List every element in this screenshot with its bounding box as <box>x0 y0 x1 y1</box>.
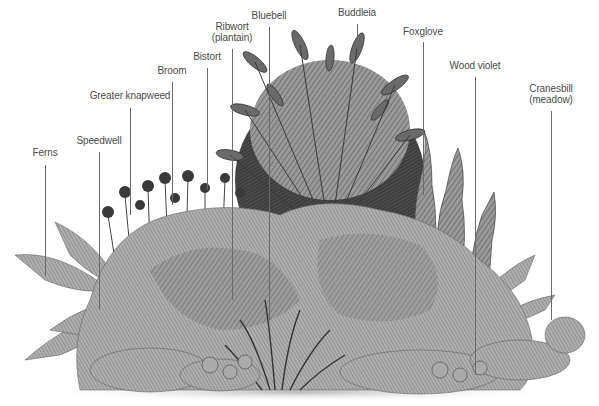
leader-line-ribwort-plantain <box>232 49 233 300</box>
leader-line-cranesbill-meadow <box>551 111 552 320</box>
label-text: Bluebell <box>252 10 287 21</box>
leader-line-greater-knapweed <box>130 108 131 215</box>
wildflower-border-diagram: FernsSpeedwellGreater knapweedBroomBisto… <box>0 0 599 406</box>
label-buddleia: Buddleia <box>338 7 376 18</box>
label-ferns: Ferns <box>32 147 57 158</box>
label-cranesbill-meadow: Cranesbill(meadow) <box>529 83 573 105</box>
label-bistort: Bistort <box>193 51 221 62</box>
leader-line-bistort <box>207 68 208 190</box>
label-text: Foxglove <box>403 26 443 37</box>
label-bluebell: Bluebell <box>252 10 287 21</box>
label-text: Cranesbill <box>529 83 573 94</box>
leader-line-broom <box>172 82 173 205</box>
label-text: Ribwort <box>212 21 253 32</box>
label-speedwell: Speedwell <box>76 135 121 146</box>
label-text: Bistort <box>193 51 221 62</box>
label-text: Buddleia <box>338 7 376 18</box>
label-text: Greater knapweed <box>90 90 171 101</box>
label-text: Broom <box>158 65 187 76</box>
leader-line-foxglove <box>423 42 424 195</box>
label-foxglove: Foxglove <box>403 26 443 37</box>
leader-line-wood-violet <box>475 77 476 375</box>
label-broom: Broom <box>158 65 187 76</box>
leader-line-buddleia <box>357 24 358 50</box>
label-text: Wood violet <box>450 60 501 71</box>
leader-line-bluebell <box>269 27 270 320</box>
label-greater-knapweed: Greater knapweed <box>90 90 171 101</box>
leader-line-speedwell <box>99 152 100 310</box>
label-text: Ferns <box>32 147 57 158</box>
planting-illustration <box>0 0 599 406</box>
leader-line-ferns <box>45 165 46 276</box>
label-text: (plantain) <box>212 32 253 43</box>
label-text: Speedwell <box>76 135 121 146</box>
label-ribwort-plantain: Ribwort(plantain) <box>212 21 253 43</box>
label-wood-violet: Wood violet <box>450 60 501 71</box>
label-text: (meadow) <box>529 94 573 105</box>
